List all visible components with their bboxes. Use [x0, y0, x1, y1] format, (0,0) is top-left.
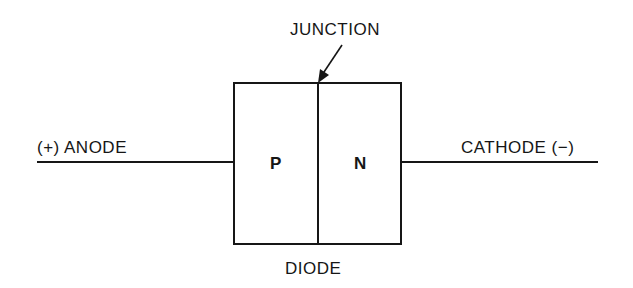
- n-region-label: N: [354, 155, 367, 172]
- anode-label: (+) ANODE: [37, 139, 127, 156]
- cathode-label: CATHODE (−): [461, 139, 574, 156]
- junction-arrow-shaft: [322, 45, 342, 75]
- diode-title: DIODE: [285, 260, 341, 277]
- junction-arrowhead-icon: [318, 69, 329, 83]
- junction-label: JUNCTION: [290, 21, 380, 38]
- p-region-label: P: [270, 155, 282, 172]
